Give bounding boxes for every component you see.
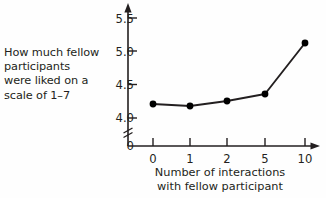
data-point-2	[224, 98, 231, 105]
data-points	[150, 40, 309, 110]
data-point-0	[150, 101, 157, 108]
data-line	[153, 43, 305, 106]
y-axis	[124, 3, 131, 146]
data-point-10	[302, 40, 309, 47]
x-axis-arrow-icon	[311, 142, 321, 149]
x-axis-ticks	[153, 138, 305, 146]
chart-figure: How much fellow participants were liked …	[0, 0, 326, 198]
plot-area	[0, 0, 326, 198]
y-axis-ticks	[128, 18, 137, 118]
data-point-5	[262, 91, 269, 98]
x-axis	[128, 142, 320, 149]
y-axis-arrow-icon	[124, 3, 131, 13]
data-point-1	[187, 103, 194, 110]
